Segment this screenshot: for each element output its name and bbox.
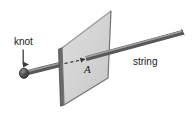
knot-shape bbox=[19, 68, 28, 78]
physics-figure-knot-string-plane: knot string A bbox=[0, 0, 192, 120]
point-a-label: A bbox=[83, 63, 91, 75]
plane-sheet bbox=[59, 11, 112, 106]
knot-label: knot bbox=[14, 36, 33, 47]
figure-canvas: knot string A bbox=[0, 0, 192, 120]
string-label: string bbox=[133, 56, 157, 67]
